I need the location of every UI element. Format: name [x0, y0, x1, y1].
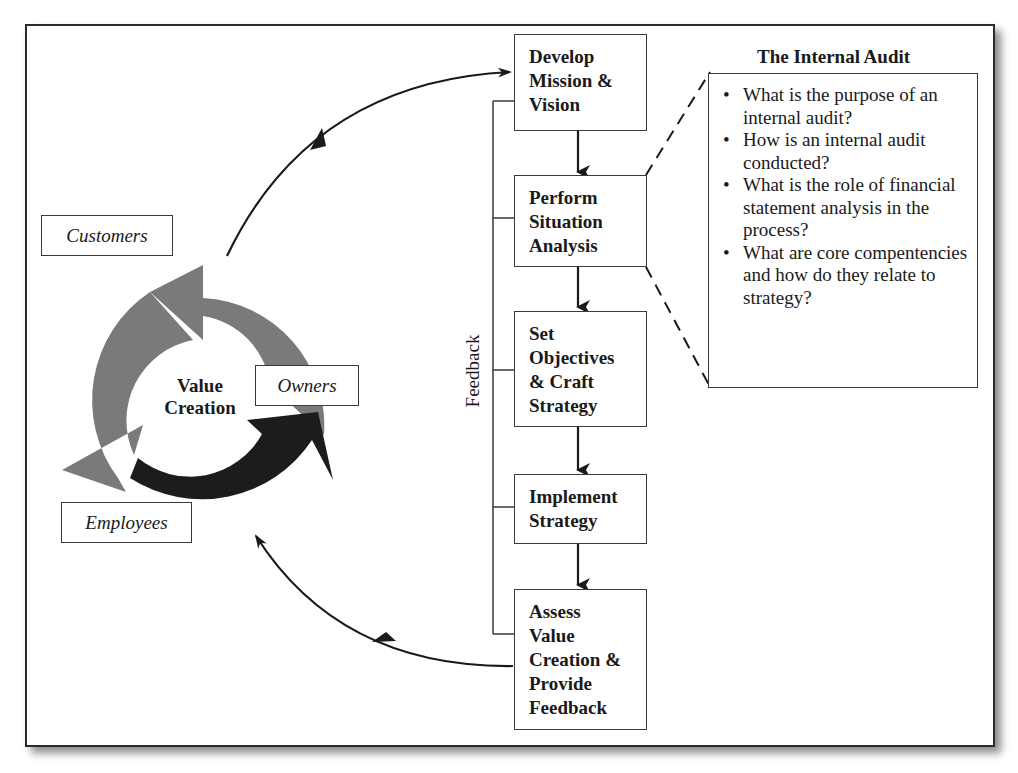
- audit-question: What is the purpose of an internal audit…: [719, 84, 969, 129]
- feedback-connector: [493, 101, 514, 634]
- arrow-to-mission-icon: [227, 72, 510, 256]
- step-line: Situation: [529, 210, 646, 234]
- step-line: Assess: [529, 600, 646, 624]
- arrow-mid-marker-bottom-icon: [372, 632, 396, 642]
- audit-question: How is an internal audit conducted?: [719, 129, 969, 174]
- customers-text: Customers: [66, 225, 147, 246]
- employees-label: Employees: [61, 502, 192, 543]
- owners-label: Owners: [255, 365, 359, 406]
- step-implement-strategy: Implement Strategy: [514, 474, 647, 544]
- step-line: Objectives: [529, 346, 646, 370]
- audit-question: What are core compentencies and how do t…: [719, 242, 969, 310]
- value-creation-line2: Creation: [160, 397, 240, 419]
- arrow-to-cycle-icon: [256, 536, 513, 666]
- owners-text: Owners: [277, 375, 336, 396]
- employees-text: Employees: [85, 512, 167, 533]
- step-line: Feedback: [529, 696, 646, 720]
- audit-question: What is the role of financial statement …: [719, 174, 969, 242]
- feedback-label: Feedback: [462, 326, 484, 416]
- step-line: Analysis: [529, 234, 646, 258]
- step-line: Creation &: [529, 648, 646, 672]
- step-line: Strategy: [529, 394, 646, 418]
- step-line: Set: [529, 322, 646, 346]
- step-line: & Craft: [529, 370, 646, 394]
- audit-box: What is the purpose of an internal audit…: [708, 73, 978, 388]
- step-line: Strategy: [529, 509, 646, 533]
- step-line: Provide: [529, 672, 646, 696]
- audit-question-list: What is the purpose of an internal audit…: [719, 84, 969, 309]
- audit-title: The Internal Audit: [757, 46, 910, 68]
- callout-lines: [646, 72, 710, 385]
- step-line: Develop: [529, 45, 646, 69]
- arrow-mid-marker-icon: [310, 128, 326, 150]
- step-line: Perform: [529, 186, 646, 210]
- step-line: Mission &: [529, 69, 646, 93]
- step-line: Vision: [529, 93, 646, 117]
- customers-label: Customers: [41, 215, 173, 256]
- step-line: Implement: [529, 485, 646, 509]
- step-situation-analysis: Perform Situation Analysis: [514, 175, 647, 267]
- step-develop-mission: Develop Mission & Vision: [514, 34, 647, 131]
- cycle-arrow-bottom-icon: [130, 412, 333, 499]
- step-objectives-strategy: Set Objectives & Craft Strategy: [514, 311, 647, 427]
- step-line: Value: [529, 624, 646, 648]
- value-creation-title: Value Creation: [160, 375, 240, 419]
- step-assess-feedback: Assess Value Creation & Provide Feedback: [514, 589, 647, 730]
- value-creation-line1: Value: [160, 375, 240, 397]
